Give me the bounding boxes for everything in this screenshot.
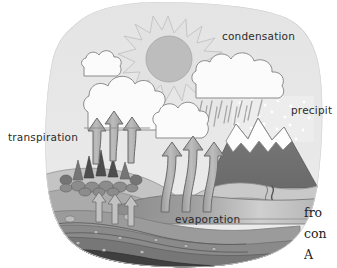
body-text-line: A — [304, 247, 337, 262]
water-cycle-figure: transpiration condensation precipit evap… — [0, 0, 337, 268]
label-evaporation: evaporation — [175, 213, 240, 225]
label-precipitation: precipit — [291, 104, 337, 116]
body-text-line: fro — [304, 205, 337, 220]
label-transpiration: transpiration — [8, 131, 78, 143]
infiltration-arrows — [92, 192, 138, 226]
label-condensation: condensation — [222, 30, 295, 42]
body-text-line: con — [304, 226, 337, 241]
